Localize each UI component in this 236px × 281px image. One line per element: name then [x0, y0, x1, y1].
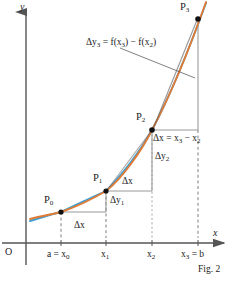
point-label-p3-sub: 3 [186, 6, 190, 14]
annotation-delta-y-3-minus: ) − f(x [125, 37, 149, 47]
tick-label-x3: x3 = b [181, 250, 204, 261]
point-label-p3: P3 [180, 2, 189, 14]
point-label-p1: P1 [93, 173, 102, 185]
secant-curve-blue [30, 3, 206, 221]
origin-label: O [5, 247, 12, 257]
y-axis-label: y [20, 2, 24, 12]
tick-label-x1: x1 [101, 250, 109, 261]
label-delta-y-1-sub: 1 [121, 199, 125, 207]
tick-label-x2: x2 [147, 250, 155, 261]
label-delta-y-2-sub: 2 [166, 155, 170, 163]
point-marker-p2 [149, 127, 155, 133]
figure-caption: Fig. 2 [198, 265, 220, 275]
chord-p2-p3 [153, 20, 197, 129]
label-delta-x-1: Δx [74, 221, 85, 231]
annotation-delta-y-3-lead: Δy [86, 37, 97, 47]
point-label-p2-sub: 2 [142, 116, 146, 124]
label-delta-x-1-main: Δx [74, 220, 85, 230]
label-delta-x-3: Δx = x3 − x2 [153, 134, 201, 145]
label-delta-x-2-main: Δx [122, 176, 133, 186]
label-delta-x-3-main: Δx = x [153, 133, 179, 143]
tick-label-x0-sub: 0 [66, 253, 70, 261]
tick-label-x2-sub: 2 [152, 253, 156, 261]
label-delta-y-2-main: Δy [155, 151, 166, 161]
tick-label-x3-tail: = b [189, 249, 204, 259]
point-label-p2: P2 [136, 112, 145, 124]
point-marker-p0 [58, 209, 63, 214]
label-delta-x-3-sub2: 2 [197, 137, 201, 145]
x-axis-label: x [213, 228, 217, 238]
point-marker-p3 [195, 16, 201, 22]
label-delta-y-1-main: Δy [110, 195, 121, 205]
figure-container: y x O P0 P1 P2 P3 a = x0 x1 x2 x3 = b Δx… [0, 0, 236, 281]
tick-label-x1-sub: 1 [106, 253, 110, 261]
point-label-p0: P0 [44, 195, 53, 207]
annotation-delta-y-3-eq: = f(x [100, 37, 121, 47]
point-marker-p1 [103, 188, 108, 193]
annotation-delta-y-3: Δy3 = f(x3) − f(x2) [86, 38, 156, 49]
label-delta-x-3-mid: − x [182, 133, 197, 143]
function-curve-orange [30, 2, 206, 219]
tick-label-x0-main: a = x [47, 249, 66, 259]
point-label-p1-sub: 1 [99, 177, 103, 185]
point-label-p0-sub: 0 [50, 199, 54, 207]
tick-label-x0: a = x0 [47, 250, 70, 261]
label-delta-y-1: Δy1 [110, 196, 124, 207]
annotation-delta-y-3-close: ) [153, 37, 156, 47]
label-delta-x-2: Δx [122, 177, 133, 187]
label-delta-y-2: Δy2 [155, 152, 169, 163]
